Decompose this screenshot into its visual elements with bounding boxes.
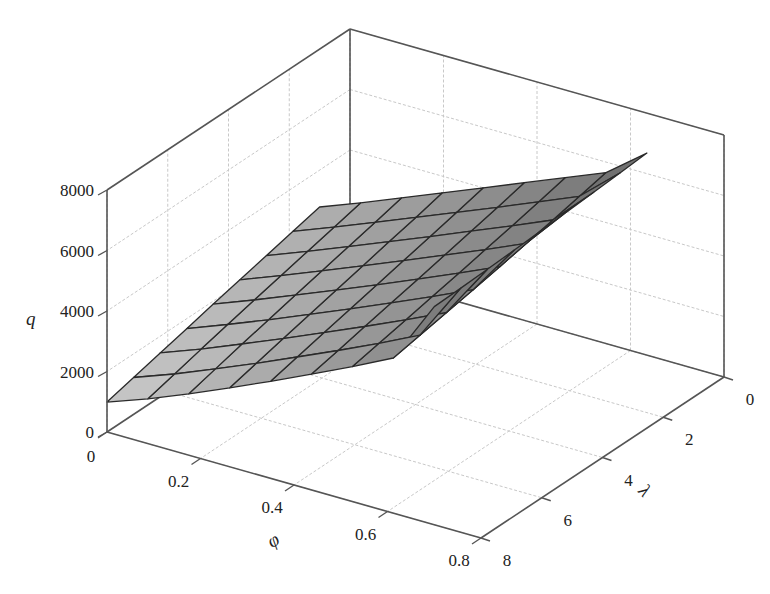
y-tick-label: 8 — [503, 551, 512, 570]
y-tick — [481, 538, 490, 541]
y-tick — [542, 498, 551, 501]
z-tick-label: 4000 — [60, 302, 94, 321]
z-tick — [98, 190, 107, 195]
x-tick-label: 0.6 — [355, 525, 376, 544]
y-tick-label: 2 — [685, 430, 694, 449]
z-tick-label: 8000 — [60, 181, 94, 200]
x-tick-label: 0.8 — [448, 551, 469, 570]
surface-mesh — [107, 153, 647, 402]
y-tick — [724, 377, 733, 380]
x-tick — [285, 485, 294, 491]
floor-gridline — [168, 392, 542, 498]
x-tick — [192, 459, 201, 465]
y-tick-label: 0 — [746, 390, 755, 409]
x-axis-label: φ — [263, 528, 283, 551]
surface-chart: 0200040006000800000.20.40.60.802468 q φ … — [0, 0, 770, 594]
z-tick-label: 6000 — [60, 242, 94, 261]
z-tick — [98, 311, 107, 316]
y-axis-label: λ — [634, 479, 655, 500]
x-tick-label: 0.2 — [168, 472, 189, 491]
box-edge — [350, 29, 724, 135]
y-tick-label: 4 — [624, 471, 633, 490]
z-tick-label: 2000 — [60, 363, 94, 382]
y-tick — [663, 417, 672, 420]
z-tick — [98, 372, 107, 377]
y-tick — [603, 458, 612, 461]
z-tick — [98, 251, 107, 256]
z-axis-label: q — [26, 308, 36, 329]
y-tick-label: 6 — [564, 511, 573, 530]
x-tick-label: 0.4 — [261, 498, 283, 517]
x-tick — [472, 538, 481, 544]
x-tick — [379, 512, 388, 518]
z-tick-label: 0 — [86, 423, 95, 442]
x-tick — [98, 432, 107, 438]
x-tick-label: 0 — [87, 447, 96, 466]
